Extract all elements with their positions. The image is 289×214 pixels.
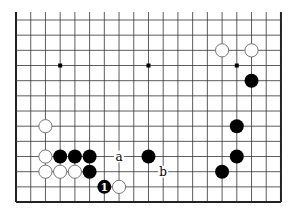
white-stone-icon — [68, 165, 81, 178]
labels-layer: ab — [114, 150, 168, 179]
black-stone-icon — [215, 165, 229, 179]
black-stone-icon — [230, 150, 244, 164]
go-board: 1 ab — [0, 0, 289, 214]
white-stone-icon — [39, 120, 52, 133]
white-stone-icon — [112, 180, 125, 193]
white-stone-icon — [245, 44, 258, 57]
black-stone-icon — [83, 150, 97, 164]
white-stone-icon — [39, 165, 52, 178]
white-stone-icon — [54, 165, 67, 178]
point-label-a: a — [115, 150, 122, 164]
point-label-b: b — [159, 165, 167, 179]
white-stone-icon — [39, 150, 52, 163]
black-stone-icon — [245, 74, 259, 88]
black-stone-icon — [83, 165, 97, 179]
star-point-icon — [58, 64, 62, 68]
white-stone-icon — [215, 44, 228, 57]
star-point-icon — [146, 64, 150, 68]
black-stone-icon — [53, 150, 67, 164]
black-stone-icon — [68, 150, 82, 164]
star-point-icon — [235, 64, 239, 68]
black-stone-icon — [230, 119, 244, 133]
move-number-label: 1 — [100, 181, 108, 194]
black-stone-icon — [141, 150, 155, 164]
